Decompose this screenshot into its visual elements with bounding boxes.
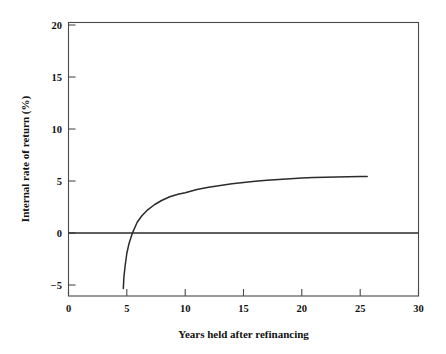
x-tick-label: 15 <box>238 303 249 314</box>
y-tick-label: 0 <box>57 228 62 239</box>
x-tick-label: 10 <box>180 303 191 314</box>
x-axis-ticks <box>69 289 419 296</box>
y-tick-label: 5 <box>57 176 62 187</box>
y-axis-ticks <box>69 25 76 285</box>
y-axis-title: Internal rate of return (%) <box>19 96 32 223</box>
irr-line-chart: 20 15 10 5 0 −5 0 5 10 15 20 25 30 Years… <box>0 0 446 354</box>
plot-frame <box>69 23 419 297</box>
x-axis-title: Years held after refinancing <box>178 328 309 340</box>
chart-figure: 20 15 10 5 0 −5 0 5 10 15 20 25 30 Years… <box>0 0 446 354</box>
x-tick-label: 0 <box>66 303 71 314</box>
x-tick-label: 30 <box>413 303 424 314</box>
x-tick-label: 25 <box>355 303 366 314</box>
y-tick-label: 10 <box>52 124 63 135</box>
x-tick-labels: 0 5 10 15 20 25 30 <box>66 303 424 314</box>
x-tick-label: 20 <box>297 303 308 314</box>
y-tick-label: 15 <box>52 72 63 83</box>
y-tick-labels: 20 15 10 5 0 −5 <box>51 20 62 291</box>
y-tick-label: −5 <box>51 280 62 291</box>
y-tick-label: 20 <box>52 20 63 31</box>
x-tick-label: 5 <box>124 303 129 314</box>
